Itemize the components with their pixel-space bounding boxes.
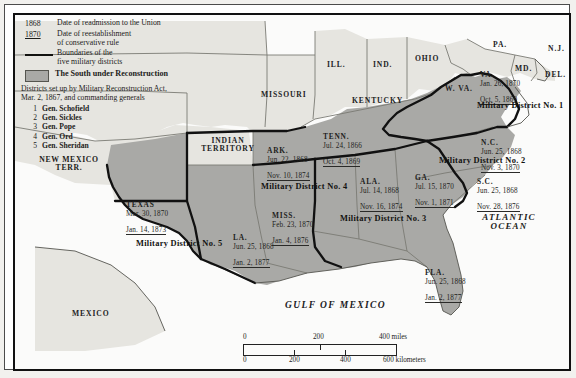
label-mexico: MEXICO [72,310,109,318]
state-conservative-texas: Jan. 14, 1873 [126,226,166,235]
state-block-south-carolina: S.C. Jun. 25, 1868 Nov. 28, 1876 [477,177,520,213]
scale-miles-tick-200: 200 [313,333,324,341]
indian-territory-line2: TERRITORY [198,145,258,153]
general-row-5: 5 Gen. Sheridan [21,141,207,150]
legend-row-shaded: The South under Reconstruction [21,69,207,82]
state-conservative-north-carolina: Nov. 3, 1870 [481,164,520,173]
label-delaware: DEL. [545,71,566,79]
general-row-2: 2 Gen. Sickles [21,113,207,122]
state-block-georgia: GA. Jul. 15, 1870 Nov. 1, 1871 [415,173,454,209]
scale-miles-labels: 0 200 400 miles [243,333,423,344]
label-new-mexico-territory: NEW MEXICO TERR. [21,156,117,174]
state-readmission-texas: Mar. 30, 1870 [126,210,168,218]
scale-km-tick-600: 600 kilometers [383,356,426,364]
state-readmission-tennessee: Jul. 24, 1866 [323,142,362,150]
scale-kilometers-labels: 0 200 400 600 kilometers [243,356,423,367]
state-name-arkansas: ARK. [267,146,310,155]
legend-note: Districts set up by Military Reconstruct… [21,85,207,103]
label-indiana: IND. [373,61,392,69]
state-conservative-arkansas: Nov. 10, 1874 [267,172,310,181]
legend-conservative-year: 1870 [21,30,57,39]
state-conservative-florida: Jan. 2, 1877 [425,294,462,303]
state-readmission-georgia: Jul. 15, 1870 [415,183,454,191]
legend-row-readmission: 1868 Date of readmission to the Union [21,19,207,28]
legend-readmission-text: Date of readmission to the Union [57,19,161,28]
state-name-south-carolina: S.C. [477,177,520,186]
state-name-louisiana: LA. [233,233,274,242]
commanding-generals-list: 1 Gen. Schofield 2 Gen. Sickles 3 Gen. P… [21,104,207,151]
state-readmission-south-carolina: Jun. 25, 1868 [477,187,520,195]
general-name-2: Gen. Sickles [42,113,82,122]
state-readmission-north-carolina: Jun. 25, 1868 [481,148,522,156]
state-readmission-alabama: Jul. 14, 1868 [360,187,403,195]
scale-miles-tick-400: 400 miles [379,333,407,341]
legend-conservative-line2: of conservative rule [57,39,131,48]
district-label-1: Military District No. 1 [477,101,563,110]
state-name-georgia: GA. [415,173,454,182]
state-conservative-south-carolina: Nov. 28, 1876 [477,203,520,212]
boundary-line-icon [25,54,53,56]
state-conservative-louisiana: Jan. 2, 1877 [233,259,270,268]
state-conservative-alabama: Nov. 16, 1874 [360,203,403,212]
state-block-louisiana: LA. Jun. 25, 1868 Jan. 2, 1877 [233,233,274,269]
new-mexico-line2: TERR. [21,164,117,173]
state-block-arkansas: ARK. Jun. 22, 1868 Nov. 10, 1874 [267,146,310,182]
state-conservative-georgia: Nov. 1, 1871 [415,199,454,208]
state-name-alabama: ALA. [360,177,403,186]
state-name-mississippi: MISS. [272,211,313,220]
general-number-2: 2 [21,113,42,122]
legend-row-conservative: 1870 Date of reestablishment of conserva… [21,30,207,47]
district-label-2: Military District No. 2 [439,156,525,165]
label-illinois: ILL. [327,61,346,69]
state-readmission-virginia: Jan. 26, 1870 [480,80,520,88]
state-conservative-tennessee: Oct. 4, 1869 [323,158,360,167]
scale-miles-tick-0: 0 [243,333,247,341]
label-indian-territory: INDIAN TERRITORY [198,137,258,153]
label-west-virginia: W. VA. [445,85,473,93]
legend: 1868 Date of readmission to the Union 18… [21,19,207,173]
scale-bar: 0 200 400 miles 0 200 400 600 kilometers [243,333,423,367]
district-label-3: Military District No. 3 [340,214,426,223]
general-row-4: 4 Gen. Ord [21,132,207,141]
general-number-1: 1 [21,104,42,113]
state-block-texas: TEXAS Mar. 30, 1870 Jan. 14, 1873 [126,200,168,236]
scale-km-tick-0: 0 [243,356,247,364]
state-name-florida: FLA. [425,268,466,277]
state-name-texas: TEXAS [126,200,168,209]
label-ohio: OHIO [415,55,439,63]
legend-readmission-year: 1868 [21,19,57,28]
label-new-jersey: N.J. [548,45,565,53]
legend-boundaries-text: Boundaries of the five military district… [57,49,122,66]
general-name-3: Gen. Pope [42,122,75,131]
state-name-north-carolina: N.C. [481,138,522,147]
map-page: 1868 Date of readmission to the Union 18… [0,0,576,378]
district-label-4: Military District No. 4 [261,182,347,191]
map-plate: 1868 Date of readmission to the Union 18… [13,13,571,371]
state-block-mississippi: MISS. Feb. 23, 1870 Jan. 4, 1876 [272,211,313,247]
state-readmission-arkansas: Jun. 22, 1868 [267,156,310,164]
state-block-alabama: ALA. Jul. 14, 1868 Nov. 16, 1874 [360,177,403,213]
state-name-tennessee: TENN. [323,132,362,141]
state-readmission-louisiana: Jun. 25, 1868 [233,243,274,251]
district-label-5: Military District No. 5 [136,239,222,248]
legend-note-line2: Mar. 2, 1867, and commanding generals [21,94,207,103]
outer-frame: 1868 Date of readmission to the Union 18… [4,4,570,370]
general-name-1: Gen. Schofield [42,104,89,113]
legend-row-boundaries: Boundaries of the five military district… [21,49,207,66]
scale-tick-km-200 [294,350,295,355]
general-name-4: Gen. Ord [42,132,73,141]
general-number-4: 4 [21,132,42,141]
state-block-florida: FLA. Jun. 25, 1868 Jan. 2, 1877 [425,268,466,304]
state-name-virginia: VA. [480,70,520,79]
state-block-tennessee: TENN. Jul. 24, 1866 Oct. 4, 1869 [323,132,362,168]
general-name-5: Gen. Sheridan [42,141,89,150]
legend-conservative-text: Date of reestablishment of conservative … [57,30,131,47]
scale-tick-km-400 [345,350,346,355]
scale-km-tick-400: 400 [340,356,351,364]
reconstruction-swatch-icon [25,70,49,82]
state-readmission-mississippi: Feb. 23, 1870 [272,221,313,229]
label-missouri: MISSOURI [261,91,307,99]
label-gulf-of-mexico: GULF OF MEXICO [285,301,386,311]
scale-km-tick-200: 200 [289,356,300,364]
general-number-3: 3 [21,122,42,131]
